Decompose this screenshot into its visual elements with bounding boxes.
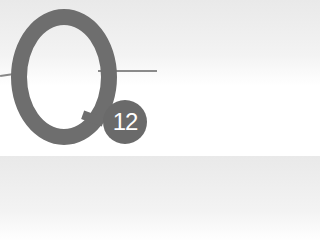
question-number-badge: 12 — [103, 100, 147, 144]
